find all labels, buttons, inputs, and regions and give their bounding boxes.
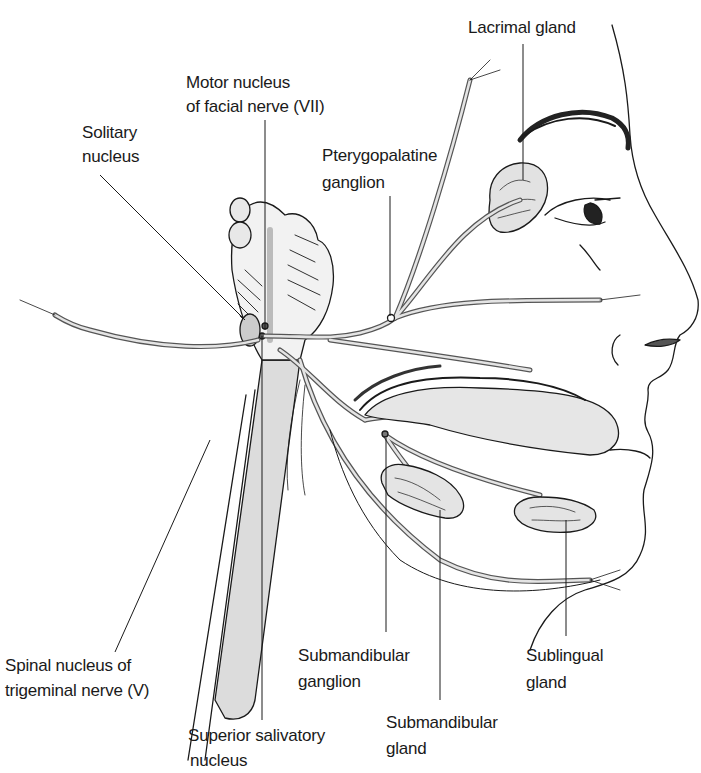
label-pterygopalatine-line1: Pterygopalatine [322, 145, 437, 166]
label-motor-nucleus-line2: of facial nerve (VII) [186, 96, 324, 117]
label-spinal-nucleus-line2: trigeminal nerve (V) [5, 680, 149, 701]
label-motor-nucleus-line1: Motor nucleus [186, 72, 290, 93]
label-lacrimal-gland: Lacrimal gland [468, 17, 576, 38]
diagram-canvas: Lacrimal gland Motor nucleus of facial n… [0, 0, 701, 773]
label-salivatory-line2: nucleus [190, 750, 247, 771]
label-solitary-line2: nucleus [82, 146, 139, 167]
label-pterygopalatine-line2: ganglion [322, 172, 385, 193]
leader-spinal [115, 440, 210, 652]
label-submandibular-gland-line1: Submandibular [386, 712, 498, 733]
label-submandibular-ganglion-line2: ganglion [298, 671, 361, 692]
label-submandibular-gland-line2: gland [386, 738, 427, 759]
lacrimal-gland-shape [489, 163, 548, 232]
sublingual-gland-shape [514, 497, 595, 532]
label-solitary-line1: Solitary [82, 122, 137, 143]
label-spinal-nucleus-line1: Spinal nucleus of [5, 655, 131, 676]
pterygopalatine-ganglion-shape [388, 315, 395, 322]
label-salivatory-line1: Superior salivatory [188, 725, 325, 746]
label-sublingual-line2: gland [526, 672, 567, 693]
submandibular-ganglion-shape [382, 431, 388, 437]
leader-solitary [100, 175, 245, 320]
brainstem-column [215, 360, 300, 719]
submandibular-gland-shape [381, 464, 463, 518]
label-sublingual-line1: Sublingual [526, 645, 603, 666]
label-submandibular-ganglion-line1: Submandibular [298, 645, 410, 666]
